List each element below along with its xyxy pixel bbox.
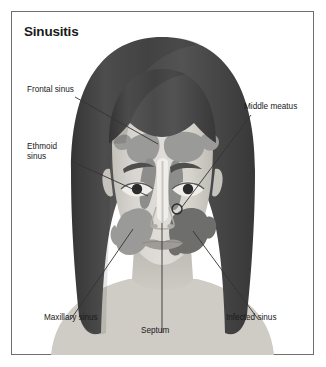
nasal-cavity <box>157 158 168 223</box>
label-ethmoid-line1: Ethmoid <box>27 142 57 152</box>
label-infected-sinus: Infected sinus <box>226 313 277 323</box>
label-ethmoid-line2: sinus <box>27 152 57 162</box>
sinusitis-figure: Sinusitis <box>0 0 326 367</box>
label-septum: Septum <box>141 326 169 336</box>
label-maxillary-sinus: Maxillary sinus <box>44 313 98 323</box>
label-ethmoid-sinus: Ethmoid sinus <box>27 142 57 162</box>
label-middle-meatus: Middle meatus <box>244 102 297 112</box>
infected-sinus-shape <box>169 208 217 256</box>
anatomy-illustration <box>11 11 314 355</box>
label-frontal-sinus: Frontal sinus <box>27 85 74 95</box>
